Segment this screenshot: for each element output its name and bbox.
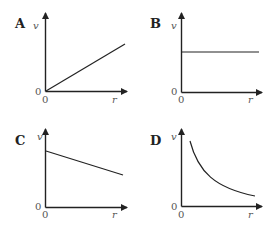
panel-b: B v 0 0 r <box>150 13 262 105</box>
x-origin-label-c: 0 <box>42 209 48 220</box>
y-origin-label-d: 0 <box>171 201 177 212</box>
x-origin-label-b: 0 <box>178 94 184 105</box>
panel-d: D v 0 0 r <box>150 129 262 220</box>
y-axis-label-a: v <box>33 20 39 31</box>
plot-line-c <box>46 151 123 175</box>
panel-label-c: C <box>15 133 25 148</box>
y-axis-label-d: v <box>171 131 177 142</box>
x-axis-label-a: r <box>112 94 118 105</box>
y-axis-label-c: v <box>37 131 43 142</box>
y-origin-label-c: 0 <box>35 201 41 212</box>
panel-label-b: B <box>150 16 161 31</box>
panel-label-d: D <box>150 133 161 148</box>
y-origin-label-b: 0 <box>171 86 177 97</box>
x-axis-label-d: r <box>248 209 254 220</box>
panel-a: A v 0 0 r <box>14 13 127 105</box>
x-axis-label-b: r <box>248 94 254 105</box>
panel-c: C v 0 0 r <box>15 129 127 220</box>
figure-four-graphs: A v 0 0 r B v 0 0 r C v 0 0 r D v 0 0 r <box>0 0 275 234</box>
x-origin-label-d: 0 <box>178 209 184 220</box>
plot-curve-d <box>190 141 255 196</box>
y-axis-label-b: v <box>171 20 177 31</box>
x-origin-label-a: 0 <box>42 94 48 105</box>
plot-line-a <box>46 44 125 91</box>
x-axis-label-c: r <box>112 209 118 220</box>
panel-label-a: A <box>14 16 26 31</box>
y-origin-label-a: 0 <box>35 86 41 97</box>
